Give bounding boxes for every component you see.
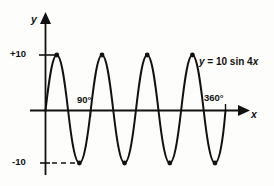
y-axis-label: y [31, 14, 37, 25]
y-tick-label-minus-10: -10 [12, 157, 26, 167]
trough-marker-1 [77, 161, 82, 166]
trough-marker-4 [213, 161, 218, 166]
equation-annotation: y = 10 sin 4x [199, 57, 258, 67]
equation-x-symbol: x [253, 56, 259, 67]
graph-canvas [0, 0, 274, 186]
peak-marker-3 [145, 53, 150, 58]
x-axis-label: x [251, 109, 257, 120]
peak-marker-1 [54, 53, 59, 58]
equation-body: = 10 sin 4 [205, 56, 253, 67]
x-tick-label-360-degrees: 360° [204, 93, 224, 103]
x-axis-arrowhead [238, 105, 250, 116]
trough-marker-2 [122, 161, 127, 166]
peak-marker-4 [190, 53, 195, 58]
peak-marker-2 [100, 53, 105, 58]
figure-sine-wave-graph: y x +10 -10 90° 360° y = 10 sin 4x [0, 0, 274, 186]
sine-curve [46, 55, 226, 163]
y-tick-label-plus-10: +10 [10, 49, 26, 59]
y-axis-arrowhead [40, 12, 51, 24]
x-tick-label-90-degrees: 90° [77, 95, 91, 105]
trough-marker-3 [167, 161, 172, 166]
